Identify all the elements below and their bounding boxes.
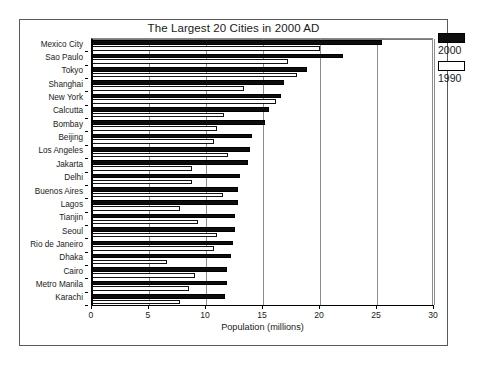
bar-1990-calcutta	[92, 113, 224, 118]
bar-2000-bombay	[92, 120, 265, 125]
bar-1990-metro-manila	[92, 286, 189, 291]
x-tick-label-20: 20	[314, 310, 324, 320]
bar-2000-beijing	[92, 134, 252, 139]
bar-1990-dhaka	[92, 260, 167, 265]
bar-1990-cairo	[92, 273, 195, 278]
category-label-beijing: Beijing	[0, 133, 83, 142]
bar-1990-buenos-aires	[92, 193, 223, 198]
bar-2000-calcutta	[92, 107, 269, 112]
bar-group	[92, 39, 433, 52]
bar-2000-cairo	[92, 267, 227, 272]
bar-1990-rio-de-janeiro	[92, 246, 214, 251]
bar-group	[92, 106, 433, 119]
chart-title: The Largest 20 Cities in 2000 AD	[19, 22, 448, 34]
bar-group	[92, 132, 433, 145]
bar-1990-tokyo	[92, 73, 297, 78]
bar-2000-sao-paulo	[92, 54, 343, 59]
bar-group	[92, 279, 433, 292]
category-tick	[85, 78, 88, 79]
category-tick	[85, 172, 88, 173]
x-tick-label-25: 25	[371, 310, 381, 320]
category-label-seoul: Seoul	[0, 227, 83, 236]
category-tick	[85, 292, 88, 293]
category-tick	[85, 185, 88, 186]
category-tick	[85, 51, 88, 52]
category-tick	[85, 131, 88, 132]
category-label-mexico-city: Mexico City	[0, 40, 83, 49]
category-label-los-angeles: Los Angeles	[0, 146, 83, 155]
category-tick	[85, 212, 88, 213]
bar-1990-jakarta	[92, 166, 192, 171]
bar-group	[92, 266, 433, 279]
category-label-sao-paulo: Sao Paulo	[0, 53, 83, 62]
x-axis-title: Population (millions)	[91, 322, 434, 332]
x-tick-label-10: 10	[200, 310, 210, 320]
bar-2000-karachi	[92, 294, 225, 299]
category-axis-labels: Mexico CitySao PauloTokyoShanghaiNew Yor…	[0, 38, 88, 305]
bar-1990-beijing	[92, 139, 214, 144]
bar-1990-los-angeles	[92, 153, 228, 158]
legend: 2000 1990	[437, 33, 481, 89]
x-tick-label-30: 30	[428, 310, 438, 320]
category-label-new-york: New York	[0, 93, 83, 102]
x-tick-label-15: 15	[257, 310, 267, 320]
bar-1990-tianjin	[92, 220, 198, 225]
bar-group	[92, 199, 433, 212]
category-tick	[85, 118, 88, 119]
x-tick-label-0: 0	[89, 310, 94, 320]
bar-2000-metro-manila	[92, 281, 227, 286]
legend-label-1990: 1990	[438, 72, 481, 84]
category-label-metro-manila: Metro Manila	[0, 280, 83, 289]
category-tick	[85, 238, 88, 239]
chart-screenshot: The Largest 20 Cities in 2000 AD Mexico …	[0, 0, 489, 370]
bar-group	[92, 213, 433, 226]
gridline-30	[434, 39, 435, 305]
category-label-delhi: Delhi	[0, 173, 83, 182]
legend-label-2000: 2000	[438, 44, 481, 56]
bar-group	[92, 52, 433, 65]
bar-group	[92, 92, 433, 105]
x-tick-30	[433, 305, 434, 309]
category-tick	[85, 225, 88, 226]
bar-1990-mexico-city	[92, 46, 320, 51]
category-label-karachi: Karachi	[0, 293, 83, 302]
bar-2000-shanghai	[92, 80, 284, 85]
bar-group	[92, 293, 433, 306]
bar-1990-bombay	[92, 126, 217, 131]
bar-group	[92, 253, 433, 266]
bar-group	[92, 79, 433, 92]
bar-group	[92, 159, 433, 172]
category-label-calcutta: Calcutta	[0, 106, 83, 115]
bar-group	[92, 146, 433, 159]
x-tick-15	[262, 305, 263, 309]
category-tick	[85, 252, 88, 253]
bar-2000-seoul	[92, 227, 235, 232]
category-label-cairo: Cairo	[0, 267, 83, 276]
bar-2000-buenos-aires	[92, 187, 238, 192]
bar-group	[92, 119, 433, 132]
bar-2000-jakarta	[92, 160, 248, 165]
category-label-jakarta: Jakarta	[0, 160, 83, 169]
category-tick	[85, 65, 88, 66]
category-tick	[85, 305, 88, 306]
legend-swatch-1990	[438, 61, 465, 71]
x-tick-5	[148, 305, 149, 309]
category-tick	[85, 158, 88, 159]
legend-swatch-2000	[438, 33, 465, 43]
bar-2000-new-york	[92, 94, 281, 99]
category-label-bombay: Bombay	[0, 120, 83, 129]
plot-area	[91, 38, 433, 305]
category-label-tianjin: Tianjin	[0, 213, 83, 222]
category-tick	[85, 91, 88, 92]
bar-2000-mexico-city	[92, 40, 382, 45]
x-tick-10	[205, 305, 206, 309]
x-tick-20	[319, 305, 320, 309]
bar-1990-karachi	[92, 300, 180, 305]
bar-1990-new-york	[92, 99, 276, 104]
x-tick-0	[91, 305, 92, 309]
bar-group	[92, 239, 433, 252]
bar-group	[92, 186, 433, 199]
bar-2000-tianjin	[92, 214, 235, 219]
bar-group	[92, 226, 433, 239]
bar-group	[92, 66, 433, 79]
